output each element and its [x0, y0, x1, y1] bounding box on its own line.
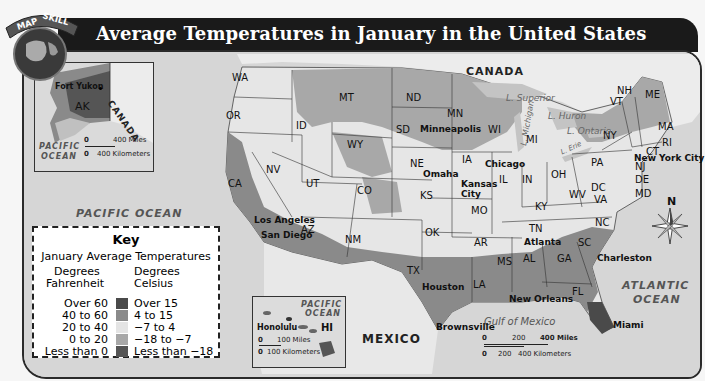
state-label-de: DE	[635, 175, 649, 185]
state-label-ar: AR	[474, 238, 488, 248]
key-swatch	[116, 334, 128, 345]
state-label-me: ME	[645, 90, 660, 100]
state-label-nh: NH	[617, 86, 632, 96]
city-label: Charleston	[597, 254, 652, 263]
state-label-mi: MI	[526, 135, 538, 145]
state-label-ma: MA	[658, 122, 673, 132]
state-label-ri: RI	[662, 138, 672, 148]
ocean-pacific-inset-1: PACIFIC	[39, 143, 80, 151]
state-label-ga: GA	[557, 254, 572, 264]
state-label-wi: WI	[488, 125, 501, 135]
key-row-celsius: −7 to 4	[134, 322, 175, 333]
state-label-ny: NY	[603, 131, 617, 141]
state-label-ut: UT	[306, 179, 319, 189]
state-label-ne: NE	[410, 159, 424, 169]
scale-km-zero: 0	[482, 351, 487, 358]
hi-scale-miles: 100 Miles	[277, 337, 310, 344]
ocean-pacific-inset-2: OCEAN	[41, 153, 77, 161]
key-title: Key	[34, 232, 218, 247]
ocean-pacific-hi-1: PACIFIC	[301, 301, 342, 309]
city-honolulu: Honolulu	[257, 324, 297, 332]
scale-km: 400 Kilometers	[518, 351, 571, 358]
city-label: Houston	[422, 283, 464, 292]
state-hi: HI	[321, 323, 333, 333]
city-label: New Orleans	[509, 295, 573, 304]
city-fort-yukon: Fort Yukon	[55, 83, 103, 91]
state-label-mo: MO	[471, 206, 488, 216]
key-subtitle: January Average Temperatures	[34, 250, 218, 263]
ak-scale-zero-top: 0	[84, 137, 89, 144]
scale-bar-km	[484, 346, 524, 347]
state-label-dc: DC	[591, 183, 606, 193]
state-label-id: ID	[296, 121, 307, 131]
ak-scale-bar	[85, 146, 115, 147]
state-label-vt: VT	[610, 97, 623, 107]
key-celsius-header-2: Celsius	[134, 278, 173, 290]
city-label: Kansas	[461, 180, 497, 189]
city-label: Los Angeles	[254, 216, 315, 225]
state-label-al: AL	[523, 254, 535, 264]
key-row-fahrenheit: 40 to 60	[62, 310, 108, 321]
lake-huron: L. Huron	[548, 112, 586, 121]
key-row-fahrenheit: 0 to 20	[69, 334, 108, 345]
state-label-ms: MS	[497, 257, 512, 267]
city-dot-fort-yukon	[99, 87, 102, 90]
state-label-wy: WY	[347, 140, 363, 150]
hi-scale-km: 100 Kilometers	[267, 349, 320, 356]
city-label: San Diego	[261, 231, 312, 240]
hi-scale-zero-top: 0	[258, 337, 263, 344]
key-swatch	[116, 346, 128, 357]
state-label-sd: SD	[396, 125, 410, 135]
city-label: New York City	[634, 154, 704, 163]
legend-key: Key January Average Temperatures Degrees…	[32, 226, 220, 358]
state-label-nv: NV	[266, 165, 280, 175]
key-swatch	[116, 322, 128, 333]
state-label-wv: WV	[569, 190, 586, 200]
scale-miles-mid: 200	[512, 335, 525, 342]
state-label-la: LA	[473, 280, 486, 290]
ocean-pacific-hi-2: OCEAN	[305, 310, 341, 318]
key-row-celsius: Over 15	[134, 298, 178, 309]
state-label-tx: TX	[407, 266, 420, 276]
map-title: Average Temperatures in January in the U…	[96, 23, 646, 44]
state-label-ok: OK	[425, 228, 439, 238]
map-page: Average Temperatures in January in the U…	[0, 0, 705, 381]
key-row-celsius: Less than −18	[134, 346, 213, 357]
key-row-celsius: 4 to 15	[134, 310, 173, 321]
country-mexico: MEXICO	[362, 333, 421, 345]
state-label-nc: NC	[595, 218, 609, 228]
city-label: Omaha	[423, 170, 459, 179]
state-label-nd: ND	[406, 93, 421, 103]
state-label-in: IN	[522, 175, 532, 185]
city-label: Atlanta	[524, 238, 561, 247]
state-label-ks: KS	[420, 191, 433, 201]
scale-bar-miles	[484, 344, 548, 345]
scale-miles-zero: 0	[482, 335, 487, 342]
key-swatch	[116, 298, 128, 309]
key-row-celsius: −18 to −7	[134, 334, 191, 345]
compass-north: N	[667, 196, 676, 207]
key-row-fahrenheit: 20 to 40	[62, 322, 108, 333]
scale-km-mid: 200	[498, 351, 511, 358]
key-swatch	[116, 310, 128, 321]
city-label: Brownsville	[436, 323, 495, 332]
ocean-pacific: PACIFIC OCEAN	[76, 208, 183, 219]
scale-miles: 400 Miles	[540, 335, 578, 342]
state-label-tn: TN	[529, 224, 543, 234]
ak-scale-zero-bottom: 0	[84, 151, 89, 158]
state-label-sc: SC	[578, 238, 591, 248]
hi-scale-zero-bottom: 0	[258, 349, 263, 356]
city-label: Minneapolis	[420, 125, 481, 134]
state-label-wa: WA	[232, 73, 248, 83]
state-label-or: OR	[226, 111, 241, 121]
state-label-co: CO	[357, 186, 372, 196]
state-label-ca: CA	[228, 179, 242, 189]
state-label-pa: PA	[591, 158, 603, 168]
country-canada: CANADA	[466, 66, 524, 77]
ocean-atlantic-2: OCEAN	[633, 294, 681, 305]
ocean-atlantic-1: ATLANTIC	[622, 280, 689, 291]
state-label-nm: NM	[345, 235, 361, 245]
key-fahrenheit-header-2: Fahrenheit	[46, 278, 104, 290]
key-row-fahrenheit: Over 60	[64, 298, 108, 309]
state-label-oh: OH	[551, 170, 566, 180]
